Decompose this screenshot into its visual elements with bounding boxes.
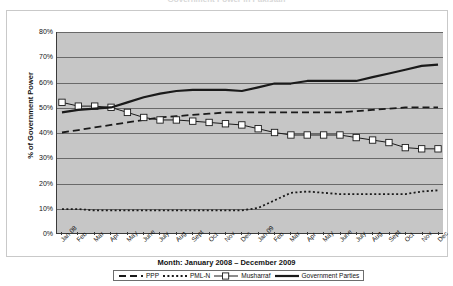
x-axis-tick xyxy=(176,232,177,235)
x-axis-tick xyxy=(94,232,95,235)
legend-label: Musharraf xyxy=(241,272,270,279)
series-line xyxy=(62,107,438,132)
series-marker xyxy=(190,118,196,124)
x-axis-tick xyxy=(307,232,308,235)
series-lines xyxy=(57,32,443,233)
chart-title-text: Government Power in Pakistan xyxy=(0,0,453,4)
legend-swatch-solid-square xyxy=(213,272,239,280)
x-axis-tick xyxy=(323,232,324,235)
series-pml-n xyxy=(62,190,438,210)
series-government-parties xyxy=(62,65,438,113)
x-axis-title: Month: January 2008 – December 2009 xyxy=(0,258,453,267)
x-axis-tick xyxy=(209,232,210,235)
series-marker xyxy=(304,132,310,138)
x-axis-tick xyxy=(405,232,406,235)
legend-swatch-dashed xyxy=(118,272,144,280)
series-marker xyxy=(59,99,65,105)
series-marker xyxy=(402,144,408,150)
x-axis-tick xyxy=(241,232,242,235)
series-marker xyxy=(337,132,343,138)
x-axis-tick xyxy=(61,232,62,235)
series-marker xyxy=(173,117,179,123)
chart-frame: 80%70%60%50%40%30%20%10%0% % of Governme… xyxy=(6,10,448,257)
legend-item-government-parties[interactable]: Government Parties xyxy=(274,272,360,280)
y-axis-tick-label: 10% xyxy=(11,205,53,212)
legend-swatch-dotted xyxy=(162,272,188,280)
legend-item-pml-n[interactable]: PML-N xyxy=(162,272,210,280)
plot-area xyxy=(56,32,443,234)
chart-screenshot: Government Power in Pakistan 80%70%60%50… xyxy=(0,0,453,286)
series-marker xyxy=(369,137,375,143)
x-axis-tick xyxy=(77,232,78,235)
x-axis-tick xyxy=(274,232,275,235)
legend-label: PML-N xyxy=(190,272,210,279)
series-marker xyxy=(320,132,326,138)
series-ppp xyxy=(62,107,438,132)
legend-item-musharraf[interactable]: Musharraf xyxy=(213,272,270,280)
series-marker xyxy=(141,114,147,120)
y-axis-tick-label: 0% xyxy=(11,230,53,237)
x-axis-tick xyxy=(192,232,193,235)
x-axis-tick xyxy=(290,232,291,235)
series-marker xyxy=(271,129,277,135)
series-marker xyxy=(418,146,424,152)
series-marker xyxy=(386,139,392,145)
series-marker xyxy=(288,132,294,138)
legend-label: PPP xyxy=(146,272,159,279)
x-axis-tick xyxy=(258,232,259,235)
series-marker xyxy=(255,126,261,132)
series-marker xyxy=(124,109,130,115)
series-marker xyxy=(239,122,245,128)
x-axis-tick xyxy=(356,232,357,235)
x-axis-tick xyxy=(372,232,373,235)
series-musharraf xyxy=(59,99,441,152)
x-axis-tick xyxy=(159,232,160,235)
chart-legend: PPPPML-NMusharrafGovernment Parties xyxy=(113,270,364,281)
series-marker xyxy=(75,103,81,109)
y-axis-tick-label: 80% xyxy=(11,28,53,35)
x-axis-tick xyxy=(127,232,128,235)
legend-item-ppp[interactable]: PPP xyxy=(118,272,159,280)
x-axis-tick xyxy=(340,232,341,235)
chart-title-clipped: Government Power in Pakistan xyxy=(0,0,453,9)
x-axis-tick xyxy=(389,232,390,235)
series-line xyxy=(62,190,438,210)
x-axis-tick xyxy=(438,232,439,235)
legend-label: Government Parties xyxy=(302,272,360,279)
x-axis-tick xyxy=(225,232,226,235)
series-marker xyxy=(157,117,163,123)
legend-swatch-solid-thick xyxy=(274,272,300,280)
series-marker xyxy=(353,134,359,140)
series-marker xyxy=(222,121,228,127)
x-axis-tick xyxy=(110,232,111,235)
x-axis-tick xyxy=(143,232,144,235)
y-axis-title: % of Government Power xyxy=(26,46,35,186)
series-marker xyxy=(206,119,212,125)
series-marker xyxy=(435,146,441,152)
x-axis-tick xyxy=(422,232,423,235)
series-line xyxy=(62,65,438,113)
